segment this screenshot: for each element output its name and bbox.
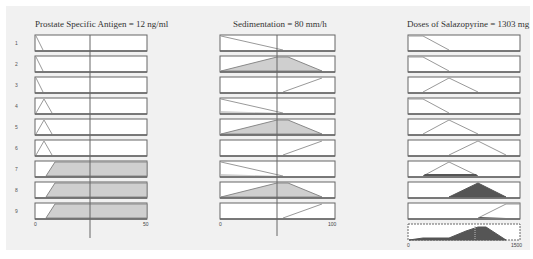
psa-row-8 (35, 182, 147, 198)
psa-row-4 (35, 98, 147, 114)
dose-row-2 (408, 56, 520, 72)
psa-row-2 (35, 56, 147, 72)
psa-axis-max: 50 (143, 221, 149, 227)
sedimentation-axis-max: 100 (328, 221, 336, 227)
psa-row-3 (35, 77, 147, 93)
psa-row-6 (35, 140, 147, 156)
salazopyrine-column (408, 35, 520, 240)
sedimentation-axis-min: 0 (219, 221, 222, 227)
psa-row-9 (35, 203, 147, 219)
psa-row-5 (35, 119, 147, 135)
psa-row-1 (35, 35, 147, 51)
dose-aggregate-output (408, 224, 520, 240)
dose-row-3 (408, 77, 520, 93)
membership-function-plots (0, 0, 533, 259)
dose-row-6 (408, 140, 520, 156)
psa-axis-min: 0 (34, 221, 37, 227)
sedimentation-column (220, 35, 335, 236)
dose-row-1 (408, 35, 520, 51)
psa-column (35, 35, 147, 238)
dose-row-7 (408, 161, 520, 177)
dose-row-4 (408, 98, 520, 114)
psa-row-7 (35, 161, 147, 177)
dose-row-9 (408, 203, 520, 219)
salazopyrine-axis-max: 1500 (511, 242, 522, 248)
dose-row-8 (408, 182, 520, 198)
dose-row-5 (408, 119, 520, 135)
salazopyrine-axis-min: 0 (407, 242, 410, 248)
